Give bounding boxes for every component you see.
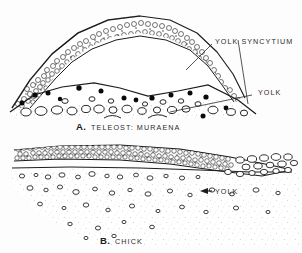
illustration-canvas: YOLK SYNCYTIUM YOLK A. TELEOST: MURAENA — [0, 0, 302, 253]
caption-b-text: CHICK — [115, 237, 143, 246]
label-yolk-panel-b: YOLK — [215, 187, 238, 196]
panel-a-teleost: YOLK SYNCYTIUM YOLK A. TELEOST: MURAENA — [10, 16, 293, 132]
caption-a-letter: A. — [76, 121, 86, 132]
caption-a-text: TELEOST: MURAENA — [91, 123, 181, 132]
panel-b-yolk-region — [12, 168, 300, 246]
label-yolk-syncytium: YOLK SYNCYTIUM — [215, 37, 293, 46]
panel-b-chick: YOLK B. CHICK — [12, 145, 300, 246]
caption-b-letter: B. — [100, 235, 110, 246]
label-yolk-panel-a: YOLK — [258, 88, 281, 97]
figure-plate: YOLK SYNCYTIUM YOLK A. TELEOST: MURAENA — [0, 0, 302, 253]
